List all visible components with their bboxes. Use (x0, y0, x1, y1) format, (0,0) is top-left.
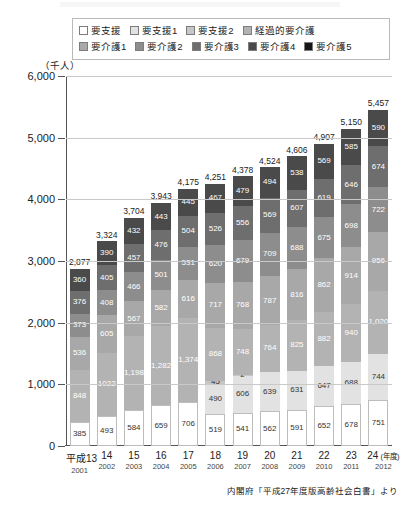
bar-segment-要介護2: 698 (341, 204, 361, 247)
legend-swatch-icon (135, 42, 144, 51)
bar-segment-value: 526 (209, 225, 222, 233)
bar-segment-経過的要介護: 868 (205, 328, 225, 382)
bar-segment-value: 562 (263, 425, 276, 433)
bar-total-label: 4,251 (205, 172, 226, 182)
bar-segment-value: 519 (209, 426, 222, 434)
legend-item-要介護2[interactable]: 要介護2 (135, 41, 182, 52)
bar-segment-要支援1: 490 (205, 384, 225, 414)
bar-segment-要介護3: 607 (287, 190, 307, 227)
bar-segment-value: 569 (263, 211, 276, 219)
bar-segment-要介護1: 616 (178, 280, 198, 318)
bar-segment-value: 748 (236, 348, 249, 356)
bar-segment-value: 556 (236, 219, 249, 227)
bar-column[interactable]: 7517441,0209567226745905,457 (368, 110, 388, 446)
bar-segment-value: 616 (182, 295, 195, 303)
bar-segment-要介護4: 494 (260, 167, 280, 197)
bar-segment-要介護4: 443 (151, 203, 171, 230)
bar-column[interactable]: 5841,1985674664574323,704 (124, 218, 144, 446)
bar-segment-要介護3: 556 (233, 206, 253, 240)
legend-item-要介護5[interactable]: 要介護5 (304, 41, 351, 52)
bar-column[interactable]: 7061,3746165315044454,175 (178, 189, 198, 446)
legend-row: 要介護1要介護2要介護3要介護4要介護5 (79, 39, 383, 54)
bar-segment-value: 688 (290, 244, 303, 252)
gridline (66, 384, 392, 385)
x-axis-label-group: 24 (年度)2012 (357, 450, 406, 471)
x-axis-label-japanese-year: 16 (148, 450, 175, 461)
legend-item-要支援2[interactable]: 要支援2 (186, 25, 233, 36)
bar-segment-要介護4: 432 (124, 218, 144, 245)
bar-segment-value: 674 (372, 163, 385, 171)
bar-segment-value: 639 (263, 388, 276, 396)
x-axis-label-japanese-year: 22 (311, 450, 338, 461)
legend-item-要介護3[interactable]: 要介護3 (192, 41, 239, 52)
bar-column[interactable]: 3858485363733763602,877 (70, 269, 90, 446)
bar-segment-value: 490 (209, 395, 222, 403)
bar-segment-要支援1: 631 (287, 371, 307, 410)
bar-segment-value: 541 (236, 425, 249, 433)
bar-segment-要支援: 584 (124, 410, 144, 446)
bar-column[interactable]: 6786889409146986465855,150 (341, 129, 361, 446)
bar-segment-value: 825 (290, 341, 303, 349)
legend-item-要支援[interactable]: 要支援 (79, 25, 121, 36)
gridline (66, 138, 392, 139)
bar-segment-要介護3: 526 (205, 213, 225, 245)
bar-segment-経過的要介護: 825 (287, 320, 307, 371)
gridline (66, 323, 392, 324)
bar-segment-value: 567 (127, 315, 140, 323)
bar-segment-要支援: 519 (205, 414, 225, 446)
bar-column[interactable]: 49310226054084053903,324 (97, 241, 117, 446)
y-axis-tick-label: 3,000 (27, 255, 55, 267)
bar-segment-要介護4: 590 (368, 110, 388, 146)
bar-segment-value: 476 (154, 241, 167, 249)
bar-segment-value: 405 (100, 274, 113, 282)
bar-column[interactable]: 6591,2825825014764433,943 (151, 203, 171, 446)
bar-segment-要介護1: 816 (287, 269, 307, 319)
bar-column[interactable]: 519490458687176205264674,251 (205, 184, 225, 446)
x-axis-label-western-year: 2003 (120, 462, 147, 471)
bar-segment-value: 1,198 (124, 369, 144, 377)
bar-segment-value: 443 (154, 213, 167, 221)
bar-segment-value: 385 (73, 430, 86, 438)
bar-segment-要介護3: 619 (314, 179, 334, 217)
legend-label: 要支援1 (142, 25, 177, 36)
bar-segment-value: 862 (317, 281, 330, 289)
y-axis-tick (58, 199, 65, 200)
bar-column[interactable]: 6526478828626756195694,907 (314, 144, 334, 446)
bar-segment-要介護2: 675 (314, 217, 334, 259)
bar-total-label: 4,175 (178, 177, 199, 187)
x-axis-label-western-year: 2007 (229, 462, 256, 471)
bar-segment-要支援1: 744 (368, 354, 388, 400)
legend-swatch-icon (304, 42, 313, 51)
bar-segment-要支援1: 688 (341, 362, 361, 404)
bar-segment-value: 1,282 (151, 362, 171, 370)
bar-segment-要介護2: 709 (260, 233, 280, 277)
bar-segment-要介護4: 479 (233, 176, 253, 206)
legend-item-要介護4[interactable]: 要介護4 (248, 41, 295, 52)
bar-segment-value: 646 (345, 181, 358, 189)
bar-segment-value: 816 (290, 291, 303, 299)
bar-total-label: 5,150 (341, 117, 362, 127)
bar-column[interactable]: 5626397647877095694944,524 (260, 167, 280, 446)
bar-segment-経過的要介護: 882 (314, 312, 334, 366)
y-axis-tick-label: 0 (49, 440, 55, 452)
bar-segment-要介護2: 531 (178, 247, 198, 280)
bar-segment-value: 764 (263, 344, 276, 352)
bar-segment-value: 688 (345, 379, 358, 387)
bar-segment-value: 582 (154, 304, 167, 312)
bar-segment-value: 882 (317, 335, 330, 343)
x-axis-label-group: 212009 (283, 450, 310, 471)
bar-segment-要支援: 751 (368, 400, 388, 446)
bar-segment-要介護1: 582 (151, 290, 171, 326)
bar-segment-要介護1: 536 (70, 337, 90, 370)
legend-item-要支援1[interactable]: 要支援1 (130, 25, 177, 36)
bar-segment-要支援1: 647 (314, 366, 334, 406)
legend-swatch-icon (192, 42, 201, 51)
legend-item-経過的要介護[interactable]: 経過的要介護 (243, 25, 315, 36)
legend-item-要介護1[interactable]: 要介護1 (79, 41, 126, 52)
y-axis-tick-label: 5,000 (27, 132, 55, 144)
x-axis-label-group: 平成132001 (66, 450, 93, 475)
bar-column[interactable]: 54160627487686795564794,378 (233, 176, 253, 446)
bar-segment-value: 868 (209, 350, 222, 358)
bar-segment-要支援: 493 (97, 416, 117, 446)
y-axis-tick (58, 384, 65, 385)
